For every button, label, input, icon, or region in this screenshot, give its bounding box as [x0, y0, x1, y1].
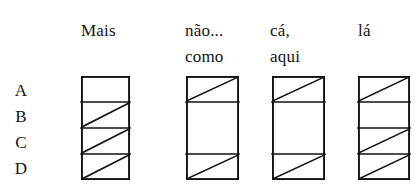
column-header-line-1: lá [358, 18, 371, 44]
column-header-line-1: cá, [270, 18, 300, 44]
cell-diagonal-c [359, 129, 409, 153]
cell-diagonal-d [359, 155, 409, 179]
cell-diagonal-d [273, 155, 324, 179]
cell-diagonal-d [82, 155, 129, 179]
cell-diagonal-a [359, 77, 409, 101]
row-label-c: C [10, 134, 32, 151]
column-header-line-2: aqui [270, 44, 300, 70]
grid-diagram: Mais não... como cá, aqui lá A B C D [0, 0, 418, 195]
cell-diagonal-b [82, 103, 129, 127]
column-header-la: lá [358, 18, 371, 44]
row-label-b: B [10, 108, 32, 125]
column-header-nao-como: não... como [185, 18, 224, 70]
row-label-d: D [10, 160, 32, 177]
column-outline [273, 77, 324, 179]
column-header-mais: Mais [81, 18, 116, 44]
row-label-a: A [10, 82, 32, 99]
cell-diagonal-d [187, 155, 238, 179]
column-outline [187, 77, 238, 179]
column-header-line-2: Mais [81, 18, 116, 44]
column-header-line-2: como [185, 44, 224, 70]
column-header-ca-aqui: cá, aqui [270, 18, 300, 70]
grid-column-nao-como [186, 76, 239, 180]
cell-diagonal-a [187, 77, 238, 101]
grid-column-ca-aqui [272, 76, 325, 180]
grid-column-la [358, 76, 410, 180]
cell-diagonal-a [273, 77, 324, 101]
column-header-line-1: não... [185, 18, 224, 44]
cell-diagonal-c [82, 129, 129, 153]
grid-column-mais [81, 76, 130, 180]
